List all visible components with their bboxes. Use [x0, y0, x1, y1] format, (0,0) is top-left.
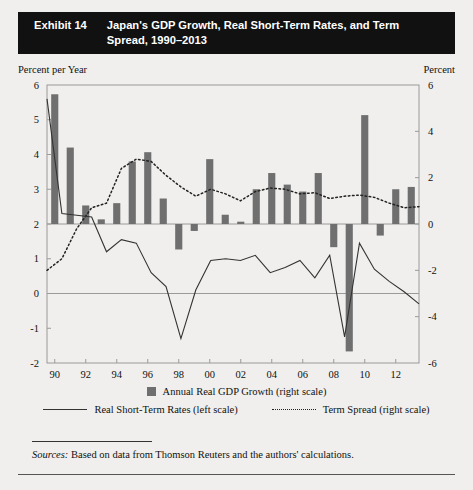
y-axis-left-tick-label: 5: [34, 114, 39, 125]
x-axis-tick-label: 08: [329, 369, 340, 378]
chart-bar: [67, 148, 74, 224]
exhibit-title: Japan's GDP Growth, Real Short-Term Rate…: [107, 18, 437, 48]
chart-bar: [129, 161, 136, 224]
y-axis-left-tick-label: 1: [34, 253, 39, 264]
y-axis-left-tick-label: -2: [30, 358, 39, 369]
source-label: Sources:: [32, 449, 68, 460]
x-axis-tick-label: 06: [298, 369, 309, 378]
chart-bar: [377, 224, 384, 236]
chart-legend: Annual Real GDP Growth (right scale) Rea…: [0, 386, 473, 415]
chart-bar: [191, 224, 198, 231]
chart-bar: [361, 115, 368, 224]
chart-bar: [268, 173, 275, 224]
chart-bar: [98, 219, 105, 224]
legend-label-term-spread: Term Spread (right scale): [323, 404, 430, 415]
chart-bar: [113, 203, 120, 224]
chart-bar: [144, 152, 151, 224]
bottom-divider: [18, 474, 455, 475]
legend-item-gdp-growth: Annual Real GDP Growth (right scale): [147, 386, 327, 397]
y-axis-right-tick-label: -4: [428, 311, 437, 322]
x-axis-tick-label: 02: [236, 369, 247, 378]
legend-item-short-term-rates: Real Short-Term Rates (left scale): [43, 404, 237, 415]
exhibit-number-label: Exhibit 14: [34, 18, 87, 33]
legend-label-short-term-rates: Real Short-Term Rates (left scale): [94, 404, 237, 415]
source-text: Based on data from Thomson Reuters and t…: [68, 449, 353, 460]
chart-bar: [330, 224, 337, 247]
y-axis-left-tick-label: -1: [30, 323, 39, 334]
chart-bar: [408, 187, 415, 224]
bar-swatch-icon: [147, 387, 156, 396]
dotted-line-swatch-icon: [272, 409, 316, 410]
chart-bar: [160, 199, 167, 224]
chart-svg: 6543210-1-26420-2-4-69092949698000204060…: [0, 78, 473, 378]
chart-bar: [299, 192, 306, 224]
y-axis-right-tick-label: 6: [428, 80, 433, 91]
x-axis-tick-label: 92: [81, 369, 92, 378]
chart-bar: [315, 173, 322, 224]
chart-bar: [253, 189, 260, 224]
x-axis-tick-label: 90: [50, 369, 61, 378]
y-axis-left-tick-label: 0: [34, 288, 39, 299]
y-axis-left-tick-label: 4: [34, 149, 40, 160]
x-axis-tick-label: 94: [112, 369, 123, 378]
chart-bar: [346, 224, 353, 351]
left-axis-caption: Percent per Year: [18, 64, 87, 75]
legend-item-term-spread: Term Spread (right scale): [272, 404, 430, 415]
exhibit-header: Exhibit 14 Japan's GDP Growth, Real Shor…: [18, 12, 455, 54]
y-axis-right-tick-label: 4: [428, 126, 434, 137]
y-axis-right-tick-label: 0: [428, 219, 433, 230]
chart-bar: [237, 222, 244, 224]
chart-bar: [206, 159, 213, 224]
legend-row-primary: Annual Real GDP Growth (right scale): [0, 386, 473, 397]
solid-line-swatch-icon: [43, 409, 87, 410]
x-axis-tick-label: 10: [360, 369, 371, 378]
legend-label-gdp-growth: Annual Real GDP Growth (right scale): [163, 386, 327, 397]
x-axis-tick-label: 96: [143, 369, 154, 378]
y-axis-left-tick-label: 3: [34, 184, 39, 195]
chart-bar: [222, 215, 229, 224]
legend-row-secondary: Real Short-Term Rates (left scale) Term …: [0, 404, 473, 415]
source-divider: [32, 441, 152, 442]
right-axis-caption: Percent: [424, 64, 456, 75]
chart-bar: [175, 224, 182, 249]
x-axis-tick-label: 12: [391, 369, 402, 378]
x-axis-tick-label: 98: [174, 369, 185, 378]
y-axis-right-tick-label: 2: [428, 172, 433, 183]
y-axis-right-tick-label: -6: [428, 358, 437, 369]
x-axis-tick-label: 04: [267, 369, 278, 378]
x-axis-tick-label: 00: [205, 369, 216, 378]
chart-plot-area: 6543210-1-26420-2-4-69092949698000204060…: [0, 78, 473, 378]
chart-bar: [82, 205, 89, 224]
source-note: Sources: Based on data from Thomson Reut…: [32, 449, 354, 460]
y-axis-right-tick-label: -2: [428, 265, 437, 276]
y-axis-left-tick-label: 6: [34, 80, 39, 91]
y-axis-left-tick-label: 2: [34, 219, 39, 230]
exhibit-page: Exhibit 14 Japan's GDP Growth, Real Shor…: [0, 0, 473, 490]
